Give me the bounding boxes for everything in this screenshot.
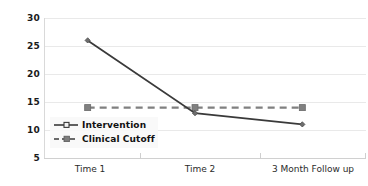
x-axis-line [44,158,366,159]
y-tick-label: 10 [10,125,40,135]
y-tick-label: 5 [10,153,40,163]
gridline-25 [44,46,366,47]
legend-item-intervention: Intervention [53,118,155,132]
legend-label-intervention: Intervention [82,120,146,130]
x-tick-separator [365,153,366,159]
x-tick-separator [260,153,261,159]
gridline-30 [44,18,366,19]
x-tick-label-follow-up: 3 Month Follow up [262,164,364,174]
x-tick-label-time-1: Time 1 [52,164,128,174]
y-tick-label: 25 [10,41,40,51]
x-tick-label-time-2: Time 2 [162,164,238,174]
gridline-15 [44,102,366,103]
legend-swatch-clinical-cutoff [53,134,79,144]
chart-legend: Intervention Clinical Cutoff [50,117,158,148]
legend-item-clinical-cutoff: Clinical Cutoff [53,132,155,146]
y-tick-label: 30 [10,13,40,23]
x-tick-separator [140,153,141,159]
gridline-20 [44,74,366,75]
y-axis-line [44,18,45,158]
legend-swatch-intervention [53,120,79,130]
line-chart: 30 25 20 15 10 5 Time 1 Time 2 3 Month F… [0,0,368,186]
y-tick-label: 15 [10,97,40,107]
y-tick-label: 20 [10,69,40,79]
legend-label-clinical-cutoff: Clinical Cutoff [82,134,155,144]
